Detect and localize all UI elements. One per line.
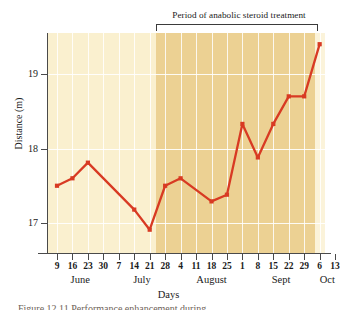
x-axis-tick [242, 254, 243, 260]
x-axis-month-label: July [112, 274, 172, 286]
x-axis-tick [227, 254, 228, 260]
data-point-marker [225, 193, 229, 197]
data-point-marker [179, 176, 183, 180]
x-axis-tick [119, 254, 120, 260]
data-point-marker [302, 94, 306, 98]
x-axis-month-label: August [182, 274, 242, 286]
series-markers [55, 42, 322, 232]
x-axis-tick [165, 254, 166, 260]
x-axis-tick [273, 254, 274, 260]
data-series-line [48, 33, 325, 253]
x-axis-tick [320, 254, 321, 260]
y-axis-title: Distance (m) [13, 59, 24, 189]
x-axis-title: Days [0, 289, 337, 300]
y-axis-tick [41, 223, 48, 224]
x-axis-tick [304, 254, 305, 260]
data-point-marker [55, 184, 59, 188]
treatment-period-bracket [156, 24, 318, 31]
y-axis-tick-label: 17 [14, 218, 38, 228]
plot-area [48, 33, 325, 253]
data-point-marker [240, 122, 244, 126]
data-point-marker [163, 184, 167, 188]
data-point-marker [148, 228, 152, 232]
x-axis-tick [134, 254, 135, 260]
data-point-marker [132, 207, 136, 211]
x-axis-month-label: June [50, 274, 110, 286]
x-axis-tick [289, 254, 290, 260]
x-axis-tick [103, 254, 104, 260]
x-axis-tick [258, 254, 259, 260]
y-axis-line [47, 33, 48, 254]
x-axis-tick [72, 254, 73, 260]
x-axis-tick [335, 254, 336, 260]
y-axis-tick [41, 149, 48, 150]
data-point-marker [287, 94, 291, 98]
x-axis-month-label: Oct [297, 274, 344, 286]
data-point-marker [70, 176, 74, 180]
x-axis-line [38, 253, 331, 254]
x-axis-tick-labels: 91623307142128411182518152229613 [0, 261, 337, 274]
x-axis-tick [150, 254, 151, 260]
figure-caption: Figure 12.11 Performance enhancement dur… [18, 303, 328, 310]
x-axis-tick [181, 254, 182, 260]
treatment-period-title: Period of anabolic steroid treatment [156, 10, 322, 21]
x-axis-tick [88, 254, 89, 260]
x-axis-tick [212, 254, 213, 260]
data-point-marker [271, 122, 275, 126]
data-point-marker [86, 161, 90, 165]
x-axis-tick-label: 13 [322, 261, 344, 272]
x-axis-tick [196, 254, 197, 260]
data-point-marker [318, 42, 322, 46]
series-polyline [57, 44, 320, 230]
data-point-marker [256, 155, 260, 159]
gridline-vertical [335, 33, 336, 253]
x-axis-month-labels: JuneJulyAugustSeptOct [0, 274, 337, 288]
y-axis-tick [41, 74, 48, 75]
data-point-marker [209, 199, 213, 203]
x-axis-tick [57, 254, 58, 260]
